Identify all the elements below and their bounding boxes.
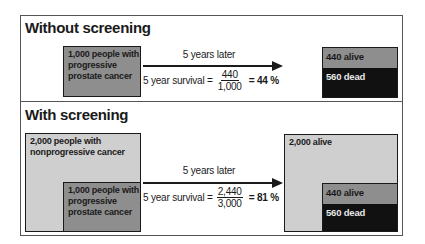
dead-label: 560 dead — [323, 68, 397, 82]
dead-segment: 560 dead — [323, 204, 397, 231]
nonprogressive-cancer-label: 2,000 people with nonprogressive cancer — [26, 134, 135, 158]
fraction: 440 1,000 — [217, 69, 243, 92]
fraction-denominator: 1,000 — [217, 81, 243, 92]
panel-title-with-screening: With screening — [25, 106, 128, 123]
alive-label: 440 alive — [323, 184, 397, 198]
progressive-cancer-label: 1,000 people with progressive prostate c… — [64, 47, 140, 82]
fraction-numerator: 2,440 — [217, 186, 243, 198]
fraction-numerator: 440 — [221, 69, 239, 81]
fraction-denominator: 3,000 — [217, 198, 243, 209]
arrow-caption: 5 years later — [143, 49, 275, 60]
dead-label: 560 dead — [323, 204, 397, 218]
arrow-line — [143, 65, 273, 67]
survival-formula: 5 year survival = 440 1,000 = 44 % — [143, 69, 279, 92]
alive-label: 440 alive — [323, 48, 397, 62]
survival-result: = 44 % — [249, 75, 279, 86]
formula-prefix: 5 year survival = — [143, 192, 213, 203]
arrow-line — [143, 182, 273, 184]
survival-result: = 81 % — [249, 192, 279, 203]
progressive-cancer-box: 1,000 people with progressive prostate c… — [63, 182, 141, 232]
fraction: 2,440 3,000 — [217, 186, 243, 209]
outcome-outer-label: 2,000 alive — [285, 135, 397, 148]
outcome-box: 440 alive 560 dead — [322, 183, 398, 232]
dead-segment: 560 dead — [323, 68, 397, 97]
survival-formula: 5 year survival = 2,440 3,000 = 81 % — [143, 186, 279, 209]
arrow-caption: 5 years later — [143, 165, 275, 176]
progressive-cancer-label: 1,000 people with progressive prostate c… — [64, 183, 140, 218]
panel-title-without-screening: Without screening — [25, 19, 151, 36]
alive-segment: 440 alive — [323, 184, 397, 204]
panel-divider — [20, 101, 403, 102]
progressive-cancer-box: 1,000 people with progressive prostate c… — [63, 46, 141, 97]
outcome-box: 440 alive 560 dead — [322, 47, 398, 98]
formula-prefix: 5 year survival = — [143, 75, 213, 86]
alive-segment: 440 alive — [323, 48, 397, 68]
